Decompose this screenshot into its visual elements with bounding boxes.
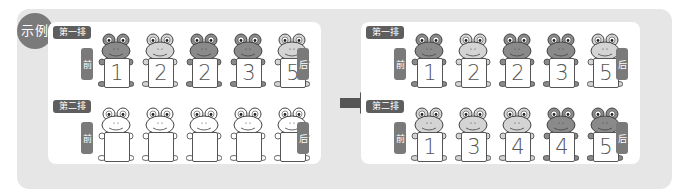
row-label: 第二排 <box>366 100 404 113</box>
frog: 2 <box>186 32 222 88</box>
row-label: 第一排 <box>53 26 91 39</box>
back-marker: 后 <box>297 48 309 80</box>
frog: 4 <box>499 106 535 162</box>
number-card <box>192 132 218 162</box>
number-card: 1 <box>104 58 130 88</box>
number-card: 1 <box>417 58 443 88</box>
number-card: 2 <box>505 58 531 88</box>
number-card: 3 <box>461 132 487 162</box>
frog: 3 <box>455 106 491 162</box>
frog-list <box>98 106 310 162</box>
back-marker: 后 <box>616 122 628 154</box>
frog: 1 <box>411 32 447 88</box>
frog: 1 <box>411 106 447 162</box>
frog: 2 <box>142 32 178 88</box>
before-row-2: 第二排 前 后 <box>48 100 321 160</box>
front-marker: 前 <box>394 48 406 80</box>
front-marker: 前 <box>81 122 93 154</box>
number-card: 4 <box>549 132 575 162</box>
after-row-1: 第一排 前 12235 后 <box>361 26 640 86</box>
before-panel: 第一排 前 12235 后 第二排 前 后 <box>48 22 321 164</box>
after-row-2: 第二排 前 13445 后 <box>361 100 640 160</box>
front-marker: 前 <box>394 122 406 154</box>
number-card: 3 <box>236 58 262 88</box>
number-card <box>236 132 262 162</box>
arrow-right-icon <box>340 98 362 108</box>
number-card: 4 <box>505 132 531 162</box>
before-row-1: 第一排 前 12235 后 <box>48 26 321 86</box>
frog <box>186 106 222 162</box>
number-card: 1 <box>417 132 443 162</box>
frog: 3 <box>230 32 266 88</box>
frog: 2 <box>499 32 535 88</box>
frog <box>142 106 178 162</box>
frog: 4 <box>543 106 579 162</box>
row-label: 第一排 <box>366 26 404 39</box>
number-card: 2 <box>192 58 218 88</box>
frog: 3 <box>543 32 579 88</box>
frog <box>230 106 266 162</box>
number-card: 3 <box>549 58 575 88</box>
frog-list: 12235 <box>98 32 310 88</box>
after-panel: 第一排 前 12235 后 第二排 前 13445 后 <box>361 22 640 164</box>
number-card <box>148 132 174 162</box>
frog-list: 13445 <box>411 106 623 162</box>
back-marker: 后 <box>297 122 309 154</box>
number-card: 2 <box>148 58 174 88</box>
frog: 2 <box>455 32 491 88</box>
back-marker: 后 <box>616 48 628 80</box>
number-card: 2 <box>461 58 487 88</box>
frog <box>98 106 134 162</box>
number-card <box>104 132 130 162</box>
front-marker: 前 <box>81 48 93 80</box>
row-label: 第二排 <box>53 100 91 113</box>
frog: 1 <box>98 32 134 88</box>
frog-list: 12235 <box>411 32 623 88</box>
